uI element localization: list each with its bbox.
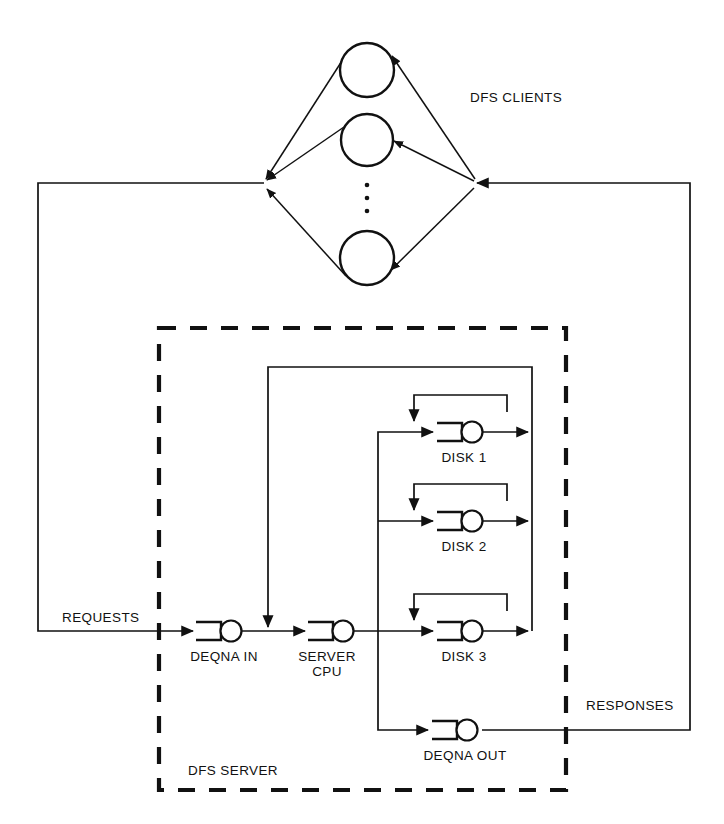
label-disk-2: DISK 2 (441, 539, 486, 554)
node-deqna-in (196, 621, 242, 642)
disk-2-queue-icon (437, 512, 462, 530)
client-1-out-edge (266, 50, 349, 179)
node-server-cpu (308, 621, 354, 642)
label-deqna-in: DEQNA IN (190, 649, 258, 664)
label-dfs-clients: DFS CLIENTS (470, 90, 562, 105)
disk-1-server-icon (462, 422, 483, 443)
label-server-cpu-line-2: CPU (312, 664, 342, 679)
node-disk-3 (437, 621, 483, 642)
dfs-server-boundary (159, 328, 566, 790)
clients-ellipsis-dot-1 (365, 183, 370, 188)
disk-3-queue-icon (437, 622, 462, 640)
client-2-out-edge (267, 127, 344, 180)
label-dfs-server: DFS SERVER (188, 763, 278, 778)
disk-2-self-loop (414, 484, 507, 510)
deqna-out-branch-edge (378, 631, 428, 730)
dfs-client-node-1 (340, 43, 394, 97)
disk-2-server-icon (462, 511, 483, 532)
disk-to-cpu-feedback-path (268, 367, 532, 631)
diagram-canvas: DFS CLIENTS REQUESTS RESPONSES DFS SERVE… (0, 0, 724, 824)
client-3-out-edge (267, 189, 346, 276)
requests-path (38, 183, 264, 631)
server-cpu-queue-icon (308, 622, 333, 640)
clients-ellipsis-dot-2 (365, 196, 370, 201)
dfs-client-node-3 (340, 231, 394, 285)
client-3-in-edge (391, 188, 474, 270)
deqna-in-server-icon (221, 621, 242, 642)
disk-1-branch-edge (378, 432, 433, 631)
responses-path (477, 183, 690, 730)
node-disk-1 (437, 422, 483, 443)
label-responses: RESPONSES (586, 698, 674, 713)
clients-ellipsis-dot-3 (365, 209, 370, 214)
node-disk-2 (437, 511, 483, 532)
label-deqna-out: DEQNA OUT (423, 748, 506, 763)
deqna-out-queue-icon (432, 721, 457, 739)
disk-1-self-loop (414, 395, 507, 421)
label-server-cpu-line-1: SERVER (298, 649, 356, 664)
node-deqna-out (432, 720, 478, 741)
label-requests: REQUESTS (62, 610, 139, 625)
deqna-out-server-icon (457, 720, 478, 741)
disk-3-self-loop (414, 594, 507, 620)
server-cpu-server-icon (333, 621, 354, 642)
queueing-network-diagram: DFS CLIENTS REQUESTS RESPONSES DFS SERVE… (0, 0, 724, 824)
disk-3-server-icon (462, 621, 483, 642)
label-disk-3: DISK 3 (441, 649, 486, 664)
label-disk-1: DISK 1 (441, 450, 486, 465)
dfs-client-node-2 (341, 114, 393, 166)
disk-1-queue-icon (437, 423, 462, 441)
deqna-in-queue-icon (196, 622, 221, 640)
